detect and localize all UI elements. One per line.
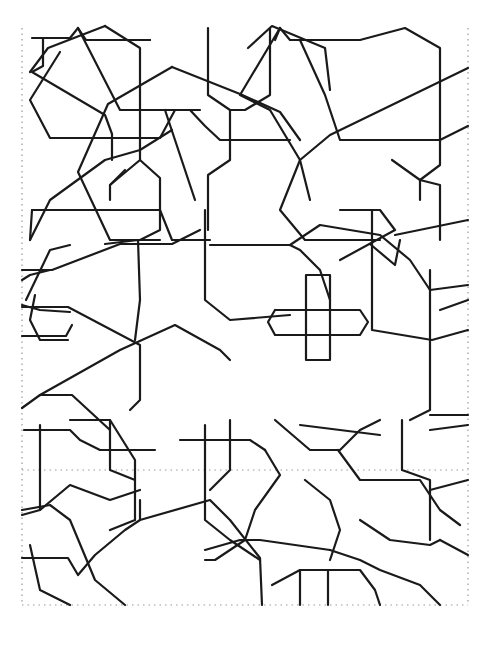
pattern-line (268, 310, 368, 335)
pattern-line (205, 210, 290, 320)
pattern-line (165, 110, 195, 200)
pattern-line (32, 38, 112, 160)
pattern-line (370, 240, 400, 265)
pattern-line (140, 500, 262, 605)
pattern-line (140, 160, 160, 240)
pattern-line (110, 170, 125, 185)
pattern-line (180, 440, 265, 450)
pattern-line (395, 220, 468, 235)
pattern-line (272, 570, 380, 605)
pattern-line (410, 270, 430, 420)
pattern-line (22, 500, 140, 575)
pattern-line (30, 545, 70, 605)
pattern-line (340, 210, 395, 260)
pattern-line (24, 430, 155, 450)
pattern-line (275, 28, 360, 40)
pattern-line (30, 26, 105, 72)
pattern-figure (0, 0, 494, 646)
pattern-line (22, 325, 72, 336)
pattern-line (210, 420, 230, 490)
pattern-line (32, 210, 210, 240)
pattern-lines (22, 26, 468, 605)
pattern-line (440, 540, 468, 555)
pattern-line (330, 550, 440, 605)
geometric-star-pattern (0, 0, 494, 646)
pattern-line (22, 395, 110, 430)
pattern-line (275, 420, 380, 450)
pattern-line (205, 540, 330, 550)
pattern-line (440, 300, 468, 310)
pattern-line (30, 52, 200, 138)
pattern-line (430, 425, 468, 430)
pattern-line (360, 520, 440, 545)
pattern-line (208, 28, 230, 230)
pattern-line (280, 160, 380, 240)
pattern-line (22, 505, 125, 605)
pattern-line (210, 245, 330, 300)
pattern-line (105, 240, 140, 340)
dotted-guide-lines (22, 28, 468, 605)
pattern-line (300, 68, 468, 200)
pattern-line (22, 230, 200, 270)
pattern-line (430, 480, 468, 490)
pattern-line (26, 245, 70, 300)
pattern-line (32, 28, 150, 40)
pattern-line (290, 225, 468, 290)
pattern-line (30, 295, 68, 340)
pattern-line (30, 130, 172, 240)
